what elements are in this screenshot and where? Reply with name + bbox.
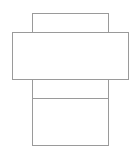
top-flap (32, 13, 109, 33)
bottom-face (32, 98, 109, 146)
middle-band (32, 79, 109, 99)
box-net-diagram (0, 0, 134, 156)
wide-face (12, 32, 129, 80)
